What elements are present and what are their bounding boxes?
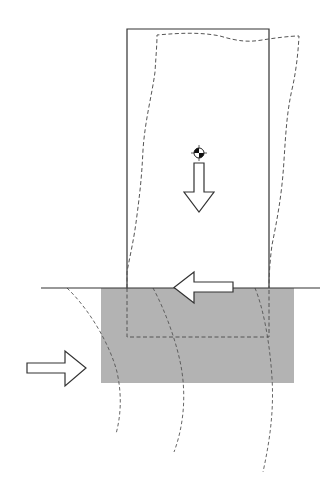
column-outline: [127, 29, 269, 288]
soil-block: [101, 288, 294, 383]
gravity-arrow-icon: [184, 163, 214, 212]
deformed-shape-outline: [127, 33, 299, 288]
diagram-canvas: [0, 0, 336, 493]
center-of-gravity-icon: [191, 145, 207, 161]
seismic-wave-arrow-icon: [27, 351, 86, 386]
